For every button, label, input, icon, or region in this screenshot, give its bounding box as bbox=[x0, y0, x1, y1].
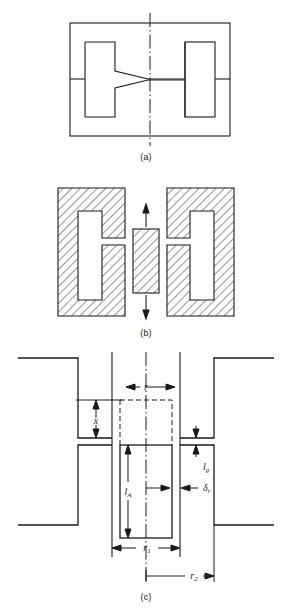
caption-b: (b) bbox=[0, 328, 292, 338]
left-coil-window bbox=[85, 42, 115, 117]
plunger-hatched bbox=[133, 229, 159, 293]
right-pole-block bbox=[185, 42, 215, 117]
label-delta-r: δr bbox=[203, 482, 211, 495]
dimension-lg bbox=[193, 426, 199, 457]
panel-b-hatched-section bbox=[0, 183, 292, 333]
label-x: x bbox=[93, 415, 99, 426]
right-core-profile-lower bbox=[180, 445, 274, 525]
right-core-hatched bbox=[167, 188, 234, 316]
left-core-hatched bbox=[58, 188, 125, 316]
label-r: r bbox=[144, 381, 148, 392]
panel-c-dimensioned-section: r x lg lA bbox=[0, 342, 292, 592]
motion-arrow-down bbox=[143, 295, 149, 319]
left-pole-outline-lower bbox=[85, 80, 185, 117]
panel-a-plan-view bbox=[0, 0, 292, 150]
technical-figure: (a) (b) bbox=[0, 0, 292, 614]
label-r2: r2 bbox=[190, 570, 198, 583]
dimension-r bbox=[126, 384, 175, 390]
left-core-profile-lower bbox=[18, 445, 112, 525]
label-lg: lg bbox=[203, 461, 210, 474]
label-r1: r1 bbox=[143, 542, 150, 555]
left-pole-outline bbox=[85, 42, 185, 79]
dimension-r2 bbox=[146, 570, 214, 582]
caption-a: (a) bbox=[0, 152, 292, 162]
caption-c: (c) bbox=[0, 592, 292, 602]
label-lA: lA bbox=[124, 486, 132, 499]
right-core-profile-upper bbox=[180, 358, 274, 438]
motion-arrow-up bbox=[143, 204, 149, 227]
left-core-profile-upper bbox=[18, 358, 112, 438]
dimension-x bbox=[76, 400, 122, 438]
